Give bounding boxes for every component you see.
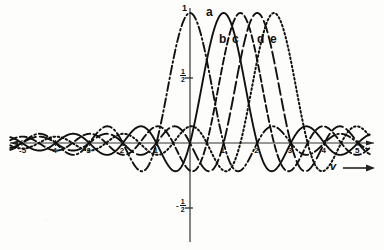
curve-label-e: e	[270, 33, 277, 45]
curve-label-c: c	[232, 33, 239, 45]
x-tick-label--2: 2	[120, 147, 124, 155]
x-tick-label-2: 2	[254, 147, 258, 155]
y-neg-half-sign: -	[176, 202, 179, 210]
x-axis-label: v	[330, 161, 336, 172]
curve-label-a: a	[206, 6, 213, 18]
x-tick-label-5: 5	[355, 147, 359, 155]
axis-direction-arrow	[343, 165, 375, 172]
y-tick-label-neg-half: - 1 2	[176, 198, 186, 213]
sinc-family-figure: a b c d e 1 1 2 - 1 2 -5432112345 v	[0, 0, 384, 250]
x-tick-label--4: 4	[53, 147, 57, 155]
y-neg-half-denominator: 2	[180, 206, 186, 213]
x-tick-label--3: 3	[86, 147, 90, 155]
x-tick-label--5: -5	[19, 147, 26, 155]
y-neg-half-numerator: 1	[180, 198, 186, 206]
x-tick-label--1: 1	[153, 147, 157, 155]
y-tick-label-half: 1 2	[180, 68, 186, 85]
y-half-numerator: 1	[180, 68, 186, 76]
x-tick-label-1: 1	[221, 147, 225, 155]
curve-label-d: d	[257, 33, 264, 45]
y-half-denominator: 2	[180, 76, 186, 83]
curve-label-b: b	[219, 33, 226, 45]
x-axis	[10, 140, 374, 145]
x-tick-label-3: 3	[288, 147, 292, 155]
chart-canvas	[0, 0, 384, 250]
x-tick-label-4: 4	[321, 147, 325, 155]
y-tick-label-1: 1	[182, 4, 187, 13]
